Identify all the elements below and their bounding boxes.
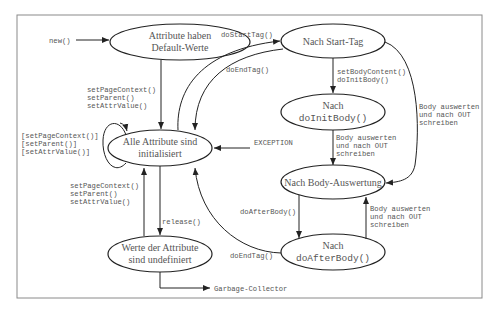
edge-label: und nach OUT xyxy=(370,213,422,221)
edge-label: und nach OUT xyxy=(419,111,471,119)
edge-label: Body auswerten xyxy=(370,205,430,213)
edge-label: doStartTag() xyxy=(221,31,273,39)
state-diagram: Attribute haben Default-Werte Alle Attri… xyxy=(0,0,498,312)
node-label: sind undefiniert xyxy=(128,254,191,265)
edge-label: Body auswerten xyxy=(419,103,479,111)
edge-label: setPageContext() xyxy=(70,182,139,190)
node-attributes-undefined: Werte der Attribute sind undefiniert xyxy=(108,236,212,272)
node-after-body-evaluation: Nach Body-Auswertung xyxy=(281,165,385,199)
edge-label: Garbage-Collector xyxy=(214,285,287,293)
node-after-start-tag: Nach Start-Tag xyxy=(281,24,385,58)
node-label: doInitBody() xyxy=(299,113,367,124)
node-label: Nach xyxy=(322,240,343,251)
edge-label: schreiben xyxy=(419,119,458,127)
edge-label: setAttrValue() xyxy=(87,102,147,110)
node-label: Default-Werte xyxy=(152,42,210,53)
edge-label: [setAttrValue()] xyxy=(21,148,90,156)
edge-label: setAttrValue() xyxy=(70,198,130,206)
node-label: Nach xyxy=(322,100,343,111)
edge-label: und nach OUT xyxy=(336,142,388,150)
node-label: Attribute haben xyxy=(149,30,211,41)
edge-label: new() xyxy=(49,37,71,45)
node-label: Nach Start-Tag xyxy=(303,36,364,47)
edge-label: doAfterBody() xyxy=(240,208,296,216)
node-label: initialisiert xyxy=(138,148,182,159)
edge-label: EXCEPTION xyxy=(254,139,293,147)
node-label: Nach Body-Auswertung xyxy=(284,177,381,188)
node-label: doAfterBody() xyxy=(296,253,370,264)
edge-label: setPageContext() xyxy=(87,86,156,94)
node-after-init-body: Nach doInitBody() xyxy=(281,94,385,130)
edge-label: [setParent()] xyxy=(21,140,77,148)
edge-label: release() xyxy=(162,218,201,226)
node-default-values: Attribute haben Default-Werte xyxy=(110,24,250,60)
edge-label: schreiben xyxy=(336,150,375,158)
edge-label: doEndTag() xyxy=(230,252,273,260)
edge-label: doEndTag() xyxy=(226,66,269,74)
edge-label: [setPageContext()] xyxy=(21,132,99,140)
edge-label: schreiben xyxy=(370,221,409,229)
node-label: Werte der Attribute xyxy=(122,242,200,253)
edge-label: setBodyContent() xyxy=(337,68,406,76)
edge-label: Body auswerten xyxy=(336,134,396,142)
node-attributes-initialized: Alle Attribute sind initialisiert xyxy=(108,130,212,166)
edge-label: setParent() xyxy=(70,190,117,198)
edge-label: setParent() xyxy=(87,94,134,102)
node-after-do-after-body: Nach doAfterBody() xyxy=(281,234,385,270)
edge-label: doInitBody() xyxy=(337,76,389,84)
node-label: Alle Attribute sind xyxy=(123,136,197,147)
